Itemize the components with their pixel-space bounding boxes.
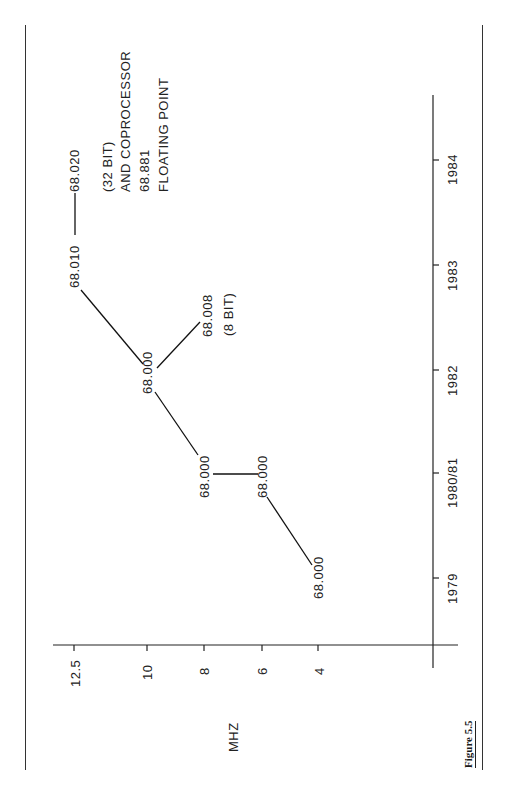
y-tick-4: 4 (312, 667, 327, 675)
x-tick-1983: 1983 (445, 260, 460, 291)
point-label-p2: 68.000 (255, 455, 270, 498)
y-axis-label: MHZ (226, 722, 241, 752)
annotation-coprocessor: AND COPROCESSOR (118, 51, 133, 192)
point-label-p5: 68.008 (200, 294, 215, 337)
x-tick-1984: 1984 (445, 154, 460, 185)
x-tick-1980-81: 1980/81 (445, 458, 460, 509)
y-tick-6: 6 (255, 667, 270, 675)
point-label-p7: 68.020 (67, 149, 82, 192)
point-label-p5-sub: (8 BIT) (221, 293, 236, 336)
point-label-p1: 68.000 (311, 556, 326, 599)
x-tick-1979: 1979 (445, 573, 460, 604)
x-tick-1982: 1982 (445, 365, 460, 396)
y-tick-12-5: 12.5 (68, 660, 83, 687)
figure-caption: Figure 5.5 (462, 721, 476, 768)
y-tick-8: 8 (197, 667, 212, 675)
point-label-p4: 68.000 (140, 351, 155, 394)
point-label-p3: 68.000 (197, 455, 212, 498)
annotation-floating-point: FLOATING POINT (156, 78, 171, 192)
annotation-32bit: (32 BIT) (100, 141, 115, 192)
point-label-p6: 68.010 (67, 245, 82, 288)
annotation-68881: 68.881 (137, 149, 152, 192)
y-tick-10: 10 (140, 665, 155, 680)
